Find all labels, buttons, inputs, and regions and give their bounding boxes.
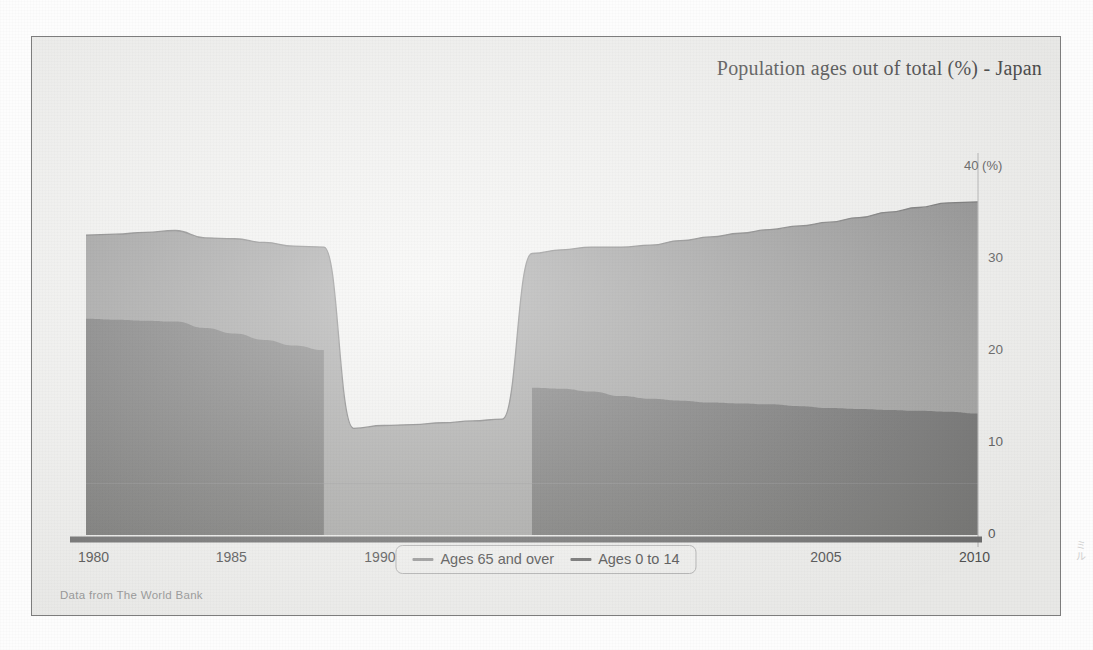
legend-item-ages-0-to-14[interactable]: Ages 0 to 14 (570, 551, 679, 567)
chart-legend[interactable]: Ages 65 and over Ages 0 to 14 (395, 545, 696, 574)
area-ages-0-to-14 (86, 319, 324, 535)
plot-area: 010203040 (%) 19801985199019952000200520… (54, 99, 1040, 569)
chart-frame: Population ages out of total (%) - Japan… (31, 36, 1061, 616)
chart-title: Population ages out of total (%) - Japan (717, 57, 1042, 80)
legend-swatch-ages-0-to-14 (570, 558, 591, 561)
legend-swatch-ages-65-and-over (412, 558, 433, 561)
source-note: Data from The World Bank (60, 589, 203, 601)
legend-label-ages-0-to-14: Ages 0 to 14 (598, 551, 679, 567)
stacked-area-chart (54, 99, 1040, 569)
page-edge-artifact: ミル (1076, 540, 1084, 584)
legend-item-ages-65-and-over[interactable]: Ages 65 and over (412, 551, 554, 567)
legend-label-ages-65-and-over: Ages 65 and over (440, 551, 554, 567)
